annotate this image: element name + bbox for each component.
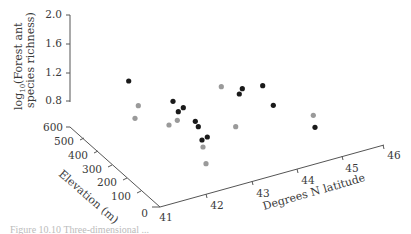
data-point — [166, 122, 171, 127]
latitude-tick-label: 43 — [256, 187, 269, 199]
data-point — [203, 161, 208, 166]
z-tick-label: 1.6 — [45, 37, 62, 49]
3d-scatter-chart: 2.0 1.6 1.2 0.8 log10(Forest ant species… — [0, 0, 411, 234]
data-point — [136, 103, 141, 108]
data-point — [233, 124, 238, 129]
z-tick-label: 2.0 — [45, 8, 62, 20]
elevation-tick-label: 100 — [111, 190, 131, 202]
elevation-tick-label: 500 — [54, 135, 74, 147]
data-point — [126, 78, 131, 83]
data-point — [181, 105, 186, 110]
latitude-axis: 41 42 43 44 45 46 Degrees N latitude — [159, 145, 401, 223]
elevation-axis: 600 500 400 300 200 100 0 Elevation (m) — [43, 121, 160, 226]
latitude-tick-label: 42 — [210, 199, 223, 211]
elevation-tick-label: 0 — [141, 207, 148, 219]
z-axis-title-line2: species richness) — [24, 12, 37, 108]
figure-caption: Figure 10.10 Three-dimensional ... — [10, 224, 149, 234]
data-point — [237, 91, 242, 96]
latitude-tick-label: 44 — [301, 174, 315, 186]
data-point — [170, 99, 175, 104]
data-point — [196, 124, 201, 129]
elevation-tick-label: 300 — [82, 163, 102, 175]
data-point — [240, 86, 245, 91]
data-point — [199, 137, 204, 142]
data-point — [311, 113, 316, 118]
latitude-tick-label: 41 — [159, 211, 172, 223]
data-point — [176, 109, 181, 114]
data-point — [175, 118, 180, 123]
elevation-tick-label: 200 — [97, 176, 117, 188]
z-tick-label: 0.8 — [45, 94, 62, 106]
data-point — [271, 103, 276, 108]
data-point — [132, 116, 137, 121]
data-point — [193, 119, 198, 124]
latitude-tick-label: 46 — [387, 149, 401, 161]
z-axis: 2.0 1.6 1.2 0.8 log10(Forest ant species… — [12, 8, 70, 110]
elevation-tick-label: 600 — [43, 121, 63, 133]
data-point — [200, 144, 205, 149]
z-tick-label: 1.2 — [45, 66, 62, 78]
elevation-tick-label: 400 — [68, 149, 88, 161]
data-point — [205, 134, 210, 139]
data-point — [260, 83, 265, 88]
data-point — [312, 125, 317, 130]
data-point — [219, 84, 224, 89]
data-points — [126, 78, 318, 166]
